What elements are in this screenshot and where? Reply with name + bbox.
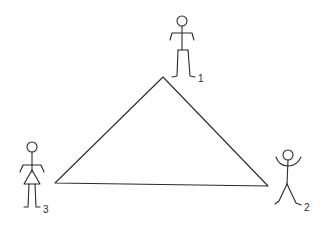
diagram-svg: 1 3 2 <box>0 0 326 226</box>
figure-2-label: 2 <box>304 202 310 213</box>
triangle <box>55 77 268 186</box>
stick-figure-1-icon <box>170 16 195 77</box>
stick-figure-2-icon <box>275 150 301 205</box>
diagram-canvas: 1 3 2 <box>0 0 326 226</box>
figure-1-label: 1 <box>198 73 204 84</box>
stick-figure-3-icon <box>20 142 44 207</box>
figure-3-label: 3 <box>43 204 49 215</box>
